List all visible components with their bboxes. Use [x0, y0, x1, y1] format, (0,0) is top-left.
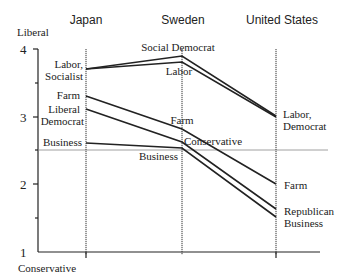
label-japan-labor-1: Labor,	[54, 58, 83, 70]
party-position-chart: Japan Sweden United States Liberal Conse…	[0, 0, 343, 280]
label-japan-farm: Farm	[57, 89, 81, 101]
y-tick-3: 3	[20, 110, 27, 125]
line-farm	[86, 96, 276, 184]
line-business	[86, 143, 276, 217]
y-tick-2: 2	[20, 177, 27, 192]
party-lines	[86, 56, 276, 217]
label-japan-business: Business	[43, 136, 82, 148]
label-japan-labor-2: Socialist	[45, 70, 83, 82]
country-axes	[86, 49, 276, 255]
label-sweden-socdem: Social Democrat	[141, 41, 215, 53]
label-sweden-conservative: Conservative	[184, 135, 242, 147]
label-sweden-labor: Labor	[166, 65, 193, 77]
column-header-sweden: Sweden	[161, 13, 204, 27]
column-header-japan: Japan	[70, 13, 103, 27]
column-header-us: United States	[246, 13, 318, 27]
label-sweden-farm: Farm	[170, 114, 194, 126]
label-japan-liberal-2: Democrat	[41, 115, 84, 127]
y-tick-1: 1	[20, 245, 27, 260]
label-us-farm: Farm	[284, 179, 308, 191]
label-us-business: Business	[284, 217, 323, 229]
label-us-labor-1: Labor,	[283, 108, 312, 120]
label-us-republican: Republican	[284, 205, 335, 217]
y-axis-top-label: Liberal	[17, 26, 49, 38]
label-japan-liberal-1: Liberal	[48, 103, 80, 115]
label-sweden-business: Business	[139, 150, 178, 162]
y-tick-4: 4	[20, 42, 27, 57]
label-us-labor-2: Democrat	[283, 120, 326, 132]
y-axis-bottom-label: Conservative	[18, 262, 76, 274]
